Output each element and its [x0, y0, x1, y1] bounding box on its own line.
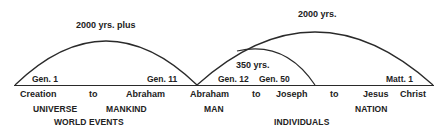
- span-label-2000-plus: 2000 yrs. plus: [76, 20, 136, 30]
- category-universe: UNIVERSE: [33, 104, 77, 114]
- point-to-2: to: [252, 89, 261, 99]
- ref-gen-12: Gen. 12: [218, 74, 249, 84]
- category-mankind: MANKIND: [106, 104, 147, 114]
- ref-gen-1: Gen. 1: [32, 74, 58, 84]
- timeline-arcs: [0, 0, 447, 136]
- category-nation: NATION: [355, 104, 388, 114]
- point-to-1: to: [89, 89, 98, 99]
- span-label-350: 350 yrs.: [236, 60, 270, 70]
- category-world-events: WORLD EVENTS: [54, 117, 124, 127]
- point-creation: Creation: [20, 89, 57, 99]
- category-individuals: INDIVIDUALS: [274, 117, 329, 127]
- point-jesus: Jesus: [363, 89, 389, 99]
- point-abraham-1: Abraham: [126, 89, 165, 99]
- point-christ: Christ: [400, 89, 426, 99]
- category-man: MAN: [204, 104, 224, 114]
- ref-gen-11: Gen. 11: [147, 74, 177, 84]
- point-joseph: Joseph: [276, 89, 308, 99]
- ref-matt-1: Matt. 1: [386, 74, 413, 84]
- point-abraham-2: Abraham: [190, 89, 229, 99]
- span-label-2000: 2000 yrs.: [298, 9, 337, 19]
- point-to-3: to: [330, 89, 339, 99]
- ref-gen-50: Gen. 50: [259, 74, 290, 84]
